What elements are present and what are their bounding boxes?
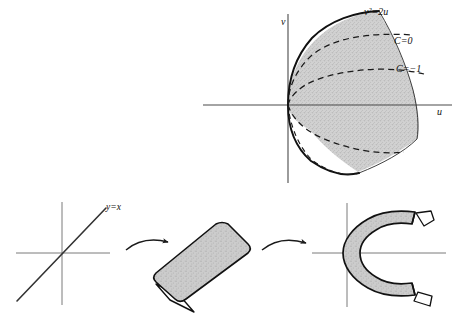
arrow-1-icon xyxy=(126,240,168,250)
step3-bent-strip xyxy=(312,203,446,307)
figure-canvas: v u v²=2u C=0 C=−1 y=x xyxy=(0,0,458,323)
v-axis-label: v xyxy=(281,16,286,27)
bottom-panel-sequence: y=x xyxy=(16,202,446,312)
u-axis-label: u xyxy=(437,106,442,117)
arrow-2-icon xyxy=(262,240,306,250)
boundary-parabola-label: v²=2u xyxy=(364,6,388,17)
top-panel-uv-plane: v u v²=2u C=0 C=−1 xyxy=(203,6,452,183)
step2-rotated-strip xyxy=(154,223,251,313)
strip-backing-top xyxy=(416,211,434,226)
figure-root: v u v²=2u C=0 C=−1 y=x xyxy=(0,0,458,323)
line-y-equals-x-label: y=x xyxy=(105,202,122,212)
level-curve-c0-label: C=0 xyxy=(394,35,412,46)
strip-backing-bottom xyxy=(414,292,432,306)
step1-xy-plane: y=x xyxy=(16,202,122,305)
strip-body xyxy=(154,223,251,302)
level-curve-cm1-label: C=−1 xyxy=(396,63,421,74)
